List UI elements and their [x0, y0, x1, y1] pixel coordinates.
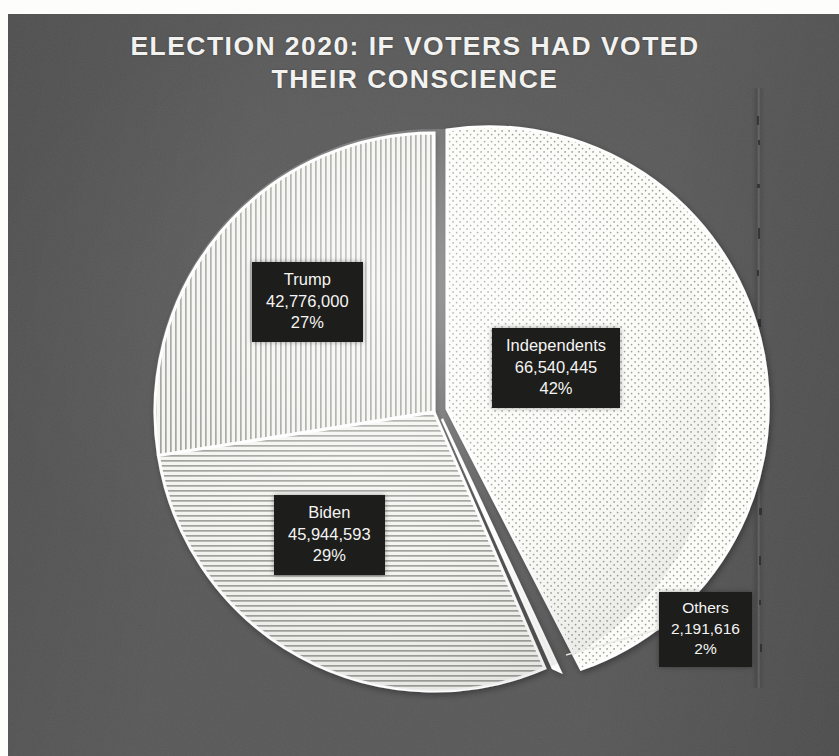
slice-label-others-votes: 2,191,616: [671, 619, 740, 640]
slice-label-independents-name: Independents: [506, 335, 606, 357]
slice-label-others[interactable]: Others 2,191,616 2%: [659, 592, 752, 667]
slice-label-independents-votes: 66,540,445: [506, 357, 606, 379]
slice-label-others-percent: 2%: [671, 639, 740, 660]
slice-label-biden-votes: 45,944,593: [288, 524, 371, 546]
slice-label-independents-percent: 42%: [506, 378, 606, 400]
slice-label-trump-percent: 27%: [266, 312, 349, 334]
poster-page: ELECTION 2020: IF VOTERS HAD VOTED THEIR…: [0, 0, 839, 756]
slice-label-trump-name: Trump: [266, 269, 349, 291]
slice-label-biden-percent: 29%: [288, 545, 371, 567]
slice-label-others-name: Others: [671, 598, 740, 619]
slice-label-biden-name: Biden: [288, 502, 371, 524]
slice-label-trump[interactable]: Trump 42,776,000 27%: [252, 262, 363, 342]
slice-label-trump-votes: 42,776,000: [266, 291, 349, 313]
slice-label-independents[interactable]: Independents 66,540,445 42%: [492, 328, 620, 408]
slice-label-biden[interactable]: Biden 45,944,593 29%: [274, 495, 385, 575]
